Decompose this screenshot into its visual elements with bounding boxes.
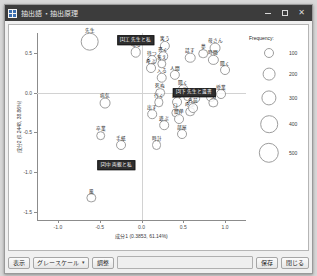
legend-title: Frequency: <box>249 35 274 41</box>
word-bubble <box>208 55 218 65</box>
word-bubble <box>220 65 230 75</box>
word-label: 行く <box>154 94 164 99</box>
x-tick <box>100 220 101 223</box>
colormode-select[interactable]: グレースケール ▾ <box>33 257 89 269</box>
word-label: 風 <box>89 189 94 194</box>
y-tick-label: -1.5 <box>23 209 32 215</box>
cluster-chip[interactable]: [1]工 先生と私 <box>117 35 154 45</box>
word-label: 卒業 <box>96 127 106 132</box>
word-label: 遊ぶ <box>159 117 169 122</box>
word-label: 出す <box>147 106 157 111</box>
word-bubble <box>146 63 156 73</box>
word-bubble <box>174 114 184 124</box>
y-tick-label: 0.0 <box>25 90 32 96</box>
word-label: 母さん <box>208 39 223 44</box>
word-bubble <box>216 89 226 99</box>
word-label: 口 <box>173 104 178 109</box>
x-tick-label: -1.0 <box>54 224 63 230</box>
y-axis-line <box>37 33 38 220</box>
maximize-button[interactable] <box>276 6 293 20</box>
x-tick <box>225 220 226 223</box>
grid-icon <box>8 9 17 18</box>
word-bubble <box>116 140 126 150</box>
adjust-button[interactable]: 調整 <box>92 257 114 269</box>
y-tick <box>34 53 37 54</box>
word-bubble <box>99 98 110 109</box>
word-bubble <box>152 140 162 150</box>
chevron-down-icon: ▾ <box>82 260 85 265</box>
analysis-window: 抽出語・抽出原理 ✕ -1.0-0.50.00.51.00.50.0-0.5-1… <box>4 4 313 274</box>
x-tick-label: 1.0 <box>222 224 229 230</box>
word-label: 名前 <box>188 99 198 104</box>
cluster-chip[interactable]: [3]下 先生と遺書 <box>173 88 215 98</box>
scatter-plot: -1.0-0.50.00.51.00.50.0-0.5-1.0-1.5成分1 (… <box>9 25 308 250</box>
x-tick-label: 0.0 <box>138 224 145 230</box>
legend-circle <box>264 48 274 58</box>
word-bubble <box>199 49 209 59</box>
word-label: 話す <box>185 49 195 54</box>
plot-canvas: -1.0-0.50.00.51.00.50.0-0.5-1.0-1.5成分1 (… <box>8 24 309 251</box>
legend-value: 500 <box>289 150 297 156</box>
word-label: 答え <box>157 56 167 61</box>
word-label: 手紙 <box>116 136 126 141</box>
word-label: 聞く <box>178 81 188 86</box>
y-tick <box>34 172 37 173</box>
x-tick <box>58 220 59 223</box>
x-tick-label: -0.5 <box>95 224 104 230</box>
y-tick-label: -0.5 <box>23 129 32 135</box>
word-label: 授業 <box>216 86 226 91</box>
word-bubble <box>209 98 218 107</box>
legend-value: 100 <box>289 50 297 56</box>
word-label: 呼ぶ <box>146 59 156 64</box>
title-bar: 抽出語・抽出原理 ✕ <box>5 5 312 21</box>
display-button[interactable]: 表示 <box>8 257 30 269</box>
save-button[interactable]: 保存 <box>256 257 278 269</box>
word-label: 時計 <box>152 136 162 141</box>
close-icon[interactable]: ✕ <box>293 6 310 20</box>
legend-value: 300 <box>289 95 297 101</box>
frequency-legend: Frequency: 100200300400500 <box>249 35 274 43</box>
bottom-toolbar: 表示 グレースケール ▾ 調整 保存 閉じる <box>5 254 312 273</box>
x-tick <box>142 220 143 223</box>
legend-circle <box>260 115 278 133</box>
word-label: 入る <box>157 68 167 73</box>
word-bubble <box>156 72 167 83</box>
word-bubble <box>185 52 196 63</box>
word-bubble <box>148 109 158 119</box>
y-tick-label: 0.5 <box>25 50 32 56</box>
x-tick <box>183 220 184 223</box>
word-label: 笑う <box>160 37 170 42</box>
cluster-chip[interactable]: [2]中 両親と私 <box>98 160 135 170</box>
word-bubble <box>87 193 96 202</box>
y-tick-label: -1.0 <box>23 169 32 175</box>
minimize-button[interactable] <box>259 6 276 20</box>
word-label: 簡単 <box>174 110 184 115</box>
word-label: 人間 <box>170 66 180 71</box>
window-controls: ✕ <box>259 6 310 20</box>
x-tick-label: 0.5 <box>180 224 187 230</box>
y-axis-label: 成分2 (0.2448, 38.86%) <box>15 100 22 153</box>
word-label: 夢 <box>201 45 206 50</box>
word-bubble <box>80 32 99 51</box>
word-label: 病気 <box>100 94 110 99</box>
word-label: 聞く <box>220 62 230 67</box>
x-zero-guide <box>142 33 143 220</box>
word-bubble <box>177 129 187 139</box>
legend-circle <box>263 68 276 81</box>
word-label: 書く <box>158 47 168 52</box>
word-label: 部屋 <box>177 125 187 130</box>
legend-value: 400 <box>289 121 297 127</box>
word-label: 時間 <box>208 51 218 56</box>
close-button[interactable]: 閉じる <box>281 257 309 269</box>
word-label: 先生 <box>85 29 95 34</box>
window-title: 抽出語・抽出原理 <box>21 10 255 17</box>
word-bubble <box>188 103 198 113</box>
word-bubble <box>170 70 180 80</box>
y-tick <box>34 212 37 213</box>
legend-value: 200 <box>289 71 297 77</box>
y-tick <box>34 93 37 94</box>
word-bubble <box>159 120 169 130</box>
colormode-value: グレースケール <box>37 260 79 266</box>
path-input[interactable] <box>117 256 253 269</box>
x-axis-label: 成分1 (0.3853, 61.14%) <box>115 232 168 239</box>
